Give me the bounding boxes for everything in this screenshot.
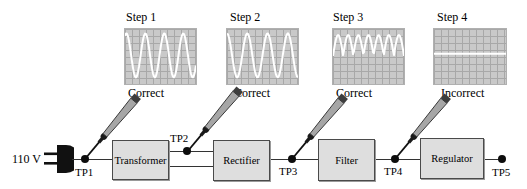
test-point-dot-tp2 [183,147,191,155]
wire-transformer-to-rectifier-bottom [167,166,213,167]
block-regulator: Regulator [420,138,484,179]
test-point-label-tp2: TP2 [170,132,188,144]
test-point-dot-tp5 [498,155,506,163]
block-filter-label: Filter [335,155,358,166]
wire-plug-to-transformer [72,159,112,160]
block-transformer: Transformer [112,140,169,180]
source-voltage-label: 110 V [12,152,41,167]
block-rectifier: Rectifier [213,140,270,181]
test-point-dot-tp1 [81,155,89,163]
test-point-label-tp3: TP3 [279,165,297,177]
step-3-title: Step 3 [333,10,363,25]
block-filter: Filter [318,139,375,181]
block-regulator-label: Regulator [431,153,472,164]
test-point-dot-tp3 [288,155,296,163]
step-4-title: Step 4 [437,10,467,25]
power-supply-troubleshooting-diagram: Step 1 Step 2 Step 3 Step 4 Correct Corr… [0,0,527,189]
test-point-dot-tp4 [391,155,399,163]
block-transformer-label: Transformer [114,155,166,166]
test-point-label-tp5: TP5 [492,166,510,178]
test-point-label-tp1: TP1 [75,166,93,178]
test-point-label-tp4: TP4 [384,165,402,177]
step-2-title: Step 2 [230,10,260,25]
block-rectifier-label: Rectifier [223,155,260,166]
step-1-title: Step 1 [126,10,156,25]
power-plug-icon [44,143,74,175]
